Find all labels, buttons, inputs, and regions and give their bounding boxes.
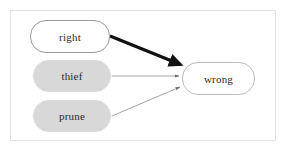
node-wrong[interactable]: wrong — [182, 62, 255, 95]
node-wrong-label: wrong — [204, 73, 233, 85]
node-right-label: right — [59, 31, 81, 43]
diagram-canvas: right thief prune wrong — [0, 0, 288, 154]
node-thief-label: thief — [61, 70, 82, 82]
node-prune-label: prune — [59, 110, 85, 122]
node-prune[interactable]: prune — [33, 100, 111, 132]
node-thief[interactable]: thief — [33, 60, 111, 92]
node-right[interactable]: right — [30, 20, 110, 53]
